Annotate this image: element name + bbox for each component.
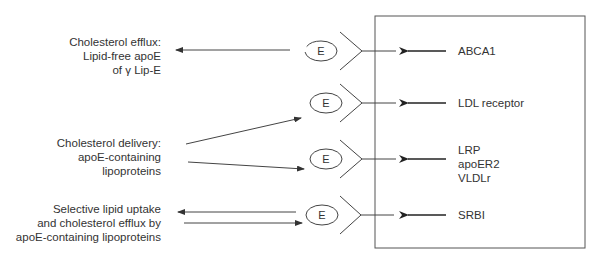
label-selective-lipid-uptake: Selective lipid uptake and cholesterol e… [16, 202, 161, 244]
receptor-label-lrp: LRP apoER2 VLDLr [458, 143, 500, 185]
label-line: Cholesterol efflux: [69, 35, 161, 49]
label-line: apoE-containing [57, 150, 161, 164]
delivery-arrow-to-lrp-icon [188, 162, 304, 169]
label-line: LDL receptor [458, 96, 524, 110]
apoE-symbol: E [322, 97, 329, 109]
receptor-binding-site-icon [340, 32, 362, 70]
delivery-arrow-to-ldl-icon [186, 118, 301, 144]
apoE-symbol: E [317, 45, 324, 57]
label-line: and cholesterol efflux by [16, 216, 161, 230]
label-line: Lipid-free apoE [69, 49, 161, 63]
label-line: VLDLr [458, 171, 500, 185]
apoE-symbol: E [322, 153, 329, 165]
label-line: apoE-containing lipoproteins [16, 230, 161, 244]
receptor-row-lrp: E [310, 140, 446, 178]
label-cholesterol-delivery: Cholesterol delivery: apoE-containing li… [57, 136, 161, 178]
label-line: of γ Lip-E [69, 63, 161, 77]
label-cholesterol-efflux: Cholesterol efflux: Lipid-free apoE of γ… [69, 35, 161, 77]
receptor-row-srbi: E [178, 196, 446, 234]
receptor-label-abca1: ABCA1 [458, 44, 496, 58]
receptor-label-ldl: LDL receptor [458, 96, 524, 110]
label-line: Cholesterol delivery: [57, 136, 161, 150]
receptor-binding-site-icon [340, 84, 362, 122]
receptor-row-ldl: E [310, 84, 446, 122]
label-line: LRP [458, 143, 500, 157]
label-line: SRBI [458, 208, 485, 222]
label-line: apoER2 [458, 157, 500, 171]
label-line: Selective lipid uptake [16, 202, 161, 216]
label-line: lipoproteins [57, 164, 161, 178]
receptor-row-abca1: E [176, 32, 446, 70]
apoE-symbol: E [318, 209, 325, 221]
label-line: ABCA1 [458, 44, 496, 58]
receptor-label-srbi: SRBI [458, 208, 485, 222]
receptor-binding-site-icon [340, 140, 362, 178]
receptor-binding-site-icon [340, 196, 361, 234]
